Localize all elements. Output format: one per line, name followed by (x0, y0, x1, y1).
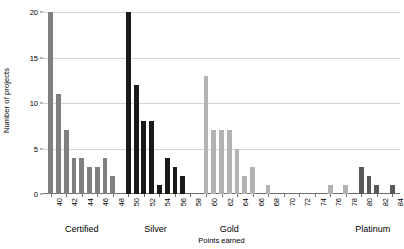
x-tick-mark (113, 194, 114, 197)
gridline (43, 12, 400, 13)
x-tick-mark (346, 194, 347, 197)
x-tick-mark (377, 194, 378, 197)
x-tick-label: 58 (194, 198, 203, 206)
bar (374, 185, 379, 194)
x-tick-label: 78 (350, 198, 359, 206)
bar (367, 176, 372, 194)
x-tick-label: 64 (241, 198, 250, 206)
x-tick-label: 44 (86, 198, 95, 206)
x-tick-mark (330, 194, 331, 197)
x-tick-mark (237, 194, 238, 197)
x-tick-label: 42 (70, 198, 79, 206)
x-tick-label: 52 (148, 198, 157, 206)
x-tick-label: 82 (381, 198, 390, 206)
bar-chart: Number of projects 05101520 404244464850… (0, 0, 404, 249)
x-tick-mark (66, 194, 67, 197)
y-tick-label: 20 (30, 8, 38, 17)
gridline (43, 103, 400, 104)
x-axis-title: Points earned (43, 236, 400, 245)
y-tick-label: 10 (30, 99, 38, 108)
x-tick-mark (159, 194, 160, 197)
x-tick-label: 54 (163, 198, 172, 206)
bar (343, 185, 348, 194)
x-tick-label: 66 (257, 198, 266, 206)
x-tick-mark (51, 194, 52, 197)
category-label: Certified (65, 224, 99, 234)
x-tick-mark (175, 194, 176, 197)
bar (149, 121, 154, 194)
x-tick-label: 60 (210, 198, 219, 206)
bar (126, 12, 131, 194)
x-tick-label: 56 (179, 198, 188, 206)
category-label: Silver (144, 224, 167, 234)
x-tick-label: 76 (334, 198, 343, 206)
x-tick-mark (190, 194, 191, 197)
x-tick-mark (82, 194, 83, 197)
bar (141, 121, 146, 194)
gridline (43, 58, 400, 59)
bar (390, 185, 395, 194)
bar (110, 176, 115, 194)
y-tick-label: 0 (34, 190, 38, 199)
bar (250, 167, 255, 194)
category-label: Platinum (355, 224, 390, 234)
bar (157, 185, 162, 194)
plot-area (43, 12, 400, 194)
bar (359, 167, 364, 194)
bar (56, 94, 61, 194)
x-tick-label: 70 (288, 198, 297, 206)
x-tick-mark (128, 194, 129, 197)
x-tick-label: 40 (55, 198, 64, 206)
x-tick-mark (392, 194, 393, 197)
x-tick-label: 68 (272, 198, 281, 206)
bar (95, 167, 100, 194)
bar (87, 167, 92, 194)
bar (242, 176, 247, 194)
y-tick-label: 15 (30, 53, 38, 62)
x-tick-mark (144, 194, 145, 197)
y-axis-ticks: 05101520 (0, 12, 43, 194)
category-label: Gold (220, 224, 239, 234)
x-tick-mark (315, 194, 316, 197)
bar (79, 158, 84, 194)
bar (204, 76, 209, 194)
x-tick-mark (361, 194, 362, 197)
x-tick-label: 80 (365, 198, 374, 206)
bar (266, 185, 271, 194)
bar (72, 158, 77, 194)
x-tick-label: 50 (132, 198, 141, 206)
x-tick-label: 72 (303, 198, 312, 206)
bar (64, 130, 69, 194)
x-tick-label: 62 (226, 198, 235, 206)
x-tick-mark (284, 194, 285, 197)
bar (173, 167, 178, 194)
bar (103, 158, 108, 194)
x-tick-mark (299, 194, 300, 197)
bar (211, 130, 216, 194)
bar (235, 149, 240, 195)
x-tick-mark (222, 194, 223, 197)
bar (227, 130, 232, 194)
bar (219, 130, 224, 194)
bar (180, 176, 185, 194)
bar (134, 85, 139, 194)
bar (165, 158, 170, 194)
x-tick-label: 84 (396, 198, 404, 206)
x-tick-mark (206, 194, 207, 197)
x-tick-label: 48 (117, 198, 126, 206)
bar (48, 12, 53, 194)
y-tick-label: 5 (34, 144, 38, 153)
bar (328, 185, 333, 194)
x-tick-mark (97, 194, 98, 197)
x-tick-mark (253, 194, 254, 197)
x-tick-label: 46 (101, 198, 110, 206)
x-tick-label: 74 (319, 198, 328, 206)
x-tick-mark (268, 194, 269, 197)
